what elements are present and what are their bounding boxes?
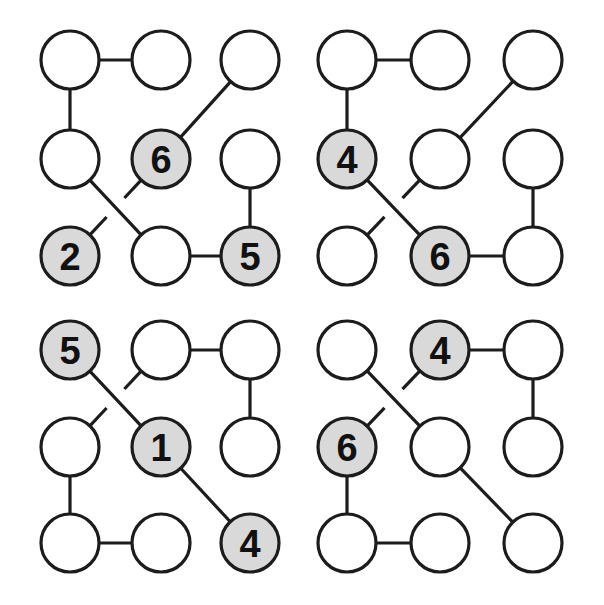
node-circle-plain xyxy=(221,418,279,476)
node-circle-plain xyxy=(318,321,376,379)
graph-node-labelled: 2 xyxy=(41,227,99,285)
graph-edge xyxy=(180,81,232,138)
graph-node xyxy=(504,31,562,89)
graph-edge xyxy=(89,217,106,236)
node-circle-plain xyxy=(318,31,376,89)
node-circle-shaded xyxy=(132,418,190,476)
graph-edge xyxy=(124,179,141,198)
edges-layer xyxy=(70,60,533,543)
graph-node xyxy=(132,31,190,89)
graph-figure: 6254651446 xyxy=(0,0,604,605)
graph-node-labelled: 1 xyxy=(132,418,190,476)
node-circle-plain xyxy=(504,130,562,188)
node-circle-plain xyxy=(411,418,469,476)
node-circle-plain xyxy=(504,418,562,476)
graph-edge xyxy=(403,370,421,389)
node-circle-shaded xyxy=(221,514,279,572)
graph-node-labelled: 5 xyxy=(221,227,279,285)
graph-node-labelled: 6 xyxy=(318,418,376,476)
node-circle-shaded xyxy=(318,418,376,476)
graph-node-labelled: 4 xyxy=(318,130,376,188)
graph-edge xyxy=(459,80,514,138)
node-circle-plain xyxy=(132,227,190,285)
node-circle-shaded xyxy=(411,321,469,379)
node-circle-plain xyxy=(318,514,376,572)
graph-node xyxy=(132,321,190,379)
node-circle-plain xyxy=(132,514,190,572)
node-circle-plain xyxy=(221,321,279,379)
node-circle-shaded xyxy=(132,130,190,188)
graph-node xyxy=(411,514,469,572)
graph-edge xyxy=(459,467,513,523)
graph-node xyxy=(221,130,279,188)
node-circle-plain xyxy=(41,130,99,188)
graph-node xyxy=(411,31,469,89)
node-circle-shaded xyxy=(41,321,99,379)
node-circle-plain xyxy=(41,418,99,476)
node-circle-plain xyxy=(411,514,469,572)
node-circle-plain xyxy=(411,130,469,188)
graph-node xyxy=(411,130,469,188)
node-circle-plain xyxy=(41,31,99,89)
graph-node xyxy=(41,31,99,89)
graph-node xyxy=(132,514,190,572)
node-circle-plain xyxy=(504,514,562,572)
node-circle-shaded xyxy=(221,227,279,285)
graph-node xyxy=(221,321,279,379)
node-circle-plain xyxy=(504,31,562,89)
graph-node-labelled: 5 xyxy=(41,321,99,379)
node-circle-shaded xyxy=(318,130,376,188)
graph-node xyxy=(318,31,376,89)
graph-node xyxy=(221,31,279,89)
node-circle-shaded xyxy=(41,227,99,285)
node-circle-shaded xyxy=(411,227,469,285)
node-circle-plain xyxy=(221,130,279,188)
graph-node xyxy=(221,418,279,476)
graph-edge xyxy=(366,217,384,236)
node-circle-plain xyxy=(132,321,190,379)
graph-canvas: 6254651446 xyxy=(0,0,604,605)
graph-node-labelled: 6 xyxy=(411,227,469,285)
graph-node xyxy=(504,130,562,188)
graph-node xyxy=(41,514,99,572)
graph-node xyxy=(318,227,376,285)
graph-edge xyxy=(89,408,106,427)
graph-node xyxy=(411,418,469,476)
graph-node-labelled: 6 xyxy=(132,130,190,188)
node-circle-plain xyxy=(504,321,562,379)
node-circle-plain xyxy=(132,31,190,89)
node-circle-plain xyxy=(411,31,469,89)
graph-node xyxy=(504,418,562,476)
graph-node xyxy=(41,418,99,476)
graph-edge xyxy=(124,370,141,389)
graph-node xyxy=(41,130,99,188)
graph-node xyxy=(504,321,562,379)
graph-node xyxy=(318,321,376,379)
graph-node-labelled: 4 xyxy=(221,514,279,572)
node-circle-plain xyxy=(504,227,562,285)
node-circle-plain xyxy=(41,514,99,572)
node-circle-plain xyxy=(318,227,376,285)
graph-node xyxy=(318,514,376,572)
node-circle-plain xyxy=(221,31,279,89)
graph-node xyxy=(132,227,190,285)
graph-edge xyxy=(403,179,421,198)
graph-edge xyxy=(180,468,231,523)
graph-edge xyxy=(366,408,384,427)
graph-node-labelled: 4 xyxy=(411,321,469,379)
graph-node xyxy=(504,227,562,285)
graph-node xyxy=(504,514,562,572)
